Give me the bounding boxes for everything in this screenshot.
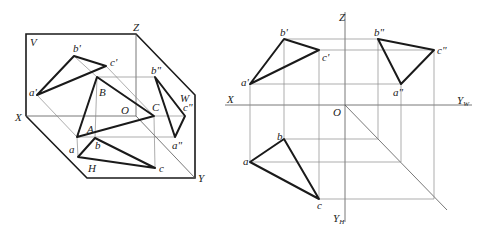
projection-figure: V Z b' c' b" B a' W c" O C X A a" a b H … [0,0,486,236]
label-origin: O [121,104,129,116]
label-c: c [317,199,322,211]
orthographic-view: Z b' c' a' b" c" a" X O YW b a c YH [225,11,472,226]
label-a-prime: a' [241,76,250,88]
y-axis [136,116,195,178]
triangle-w-projection [155,77,185,137]
triangle-w-projection [378,39,434,84]
label-axis-yh: YH [333,212,345,226]
label-b-double-prime: b" [151,64,162,76]
label-c: c [159,162,164,174]
label-b-prime: b' [280,26,289,38]
label-c-double-prime: c" [183,101,193,113]
triangle-h-projection [250,139,319,199]
label-c-prime: c' [322,51,330,63]
label-b-prime: b' [73,42,82,54]
label-a: a [243,155,249,167]
label-axis-yw: YW [457,94,470,108]
label-axis-z: Z [339,11,346,23]
45-degree-line [345,105,447,210]
label-axis-x: X [226,93,235,105]
label-point-a: A [86,123,94,135]
axonometric-view: V Z b' c' b" B a' W c" O C X A a" a b H … [14,21,206,184]
label-b-double-prime: b" [374,26,385,38]
label-point-b: B [99,86,106,98]
label-origin: O [333,106,341,118]
label-point-c: C [152,101,160,113]
label-a-prime: a' [29,86,38,98]
triangle-v-projection [250,39,319,84]
label-axis-z: Z [133,21,140,33]
label-axis-y: Y [198,172,206,184]
label-a-double-prime: a" [172,139,183,151]
label-a: a [69,143,75,155]
label-plane-h: H [87,162,97,174]
label-axis-x: X [14,111,23,123]
label-c-double-prime: c" [437,44,447,56]
label-c-prime: c' [110,56,118,68]
label-plane-v: V [30,36,38,48]
label-b: b [95,139,101,151]
label-a-double-prime: a" [393,86,404,98]
label-b: b [277,130,283,142]
construction-lines [250,39,434,199]
